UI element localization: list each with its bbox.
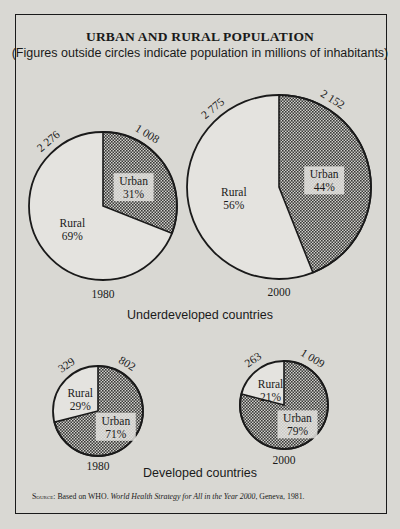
year-label: 2000 bbox=[273, 454, 296, 466]
pie-charts: Urban31%Rural69%1 0082 2761980Urban44%Ru… bbox=[0, 0, 400, 529]
rural-label: Rural bbox=[258, 378, 284, 390]
urban-label: Urban bbox=[283, 412, 312, 424]
urban-percent: 31% bbox=[123, 188, 145, 200]
rural-label: Rural bbox=[67, 387, 93, 399]
source-prefix: Source: bbox=[32, 492, 55, 501]
source-note: Source: Based on WHO. World Health Strat… bbox=[32, 492, 305, 501]
rural-percent: 29% bbox=[70, 400, 92, 412]
rural-percent: 21% bbox=[260, 391, 282, 403]
rural-value: 329 bbox=[56, 355, 77, 375]
pie-1980-2: Urban71%Rural29%8023291980 bbox=[53, 354, 143, 472]
urban-value: 802 bbox=[117, 354, 138, 373]
year-label: 2000 bbox=[268, 286, 291, 298]
urban-percent: 79% bbox=[287, 425, 309, 437]
pie-1980-0: Urban31%Rural69%1 0082 2761980 bbox=[29, 122, 177, 300]
group-label-developed: Developed countries bbox=[0, 466, 400, 480]
pie-2000-1: Urban44%Rural56%2 1522 7752000 bbox=[187, 87, 371, 298]
source-title: World Health Strategy for All in the Yea… bbox=[111, 492, 256, 501]
source-suffix: , Geneva, 1981. bbox=[255, 492, 304, 501]
rural-value: 263 bbox=[242, 350, 263, 370]
urban-percent: 44% bbox=[314, 181, 336, 193]
rural-percent: 56% bbox=[223, 199, 245, 211]
urban-percent: 71% bbox=[105, 428, 127, 440]
urban-label: Urban bbox=[119, 175, 148, 187]
source-text: Based on WHO. bbox=[57, 492, 108, 501]
rural-label: Rural bbox=[221, 186, 247, 198]
urban-label: Urban bbox=[101, 415, 130, 427]
group-label-underdeveloped: Underdeveloped countries bbox=[0, 308, 400, 322]
rural-percent: 69% bbox=[62, 230, 84, 242]
urban-label: Urban bbox=[310, 168, 339, 180]
rural-label: Rural bbox=[60, 217, 86, 229]
year-label: 1980 bbox=[92, 288, 115, 300]
pie-2000-3: Urban79%Rural21%1 0092632000 bbox=[240, 346, 328, 466]
